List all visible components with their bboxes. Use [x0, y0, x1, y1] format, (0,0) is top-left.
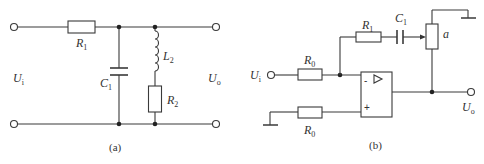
node-a-r2-bottom [153, 122, 158, 127]
terminal-b-output [468, 89, 475, 96]
label-b-c1: C1 [395, 11, 407, 27]
label-a-l2: L2 [162, 49, 174, 65]
resistor-b-r0-bottom [298, 107, 322, 118]
node-a-c1-bottom [117, 122, 122, 127]
opamp-minus-label: - [364, 75, 367, 86]
label-a-ui: Ui [13, 71, 25, 87]
caption-a: (a) [109, 141, 122, 154]
resistor-a-r1 [68, 21, 95, 33]
label-b-ui: Ui [250, 68, 262, 84]
opamp-plus-label: + [364, 102, 370, 113]
label-b-r0-top: R0 [303, 53, 315, 69]
terminal-a-out-top [213, 24, 220, 31]
circuit-b: - + R1 C1 a R0 R0 Ui Uo (b) [250, 10, 476, 152]
caption-b: (b) [369, 139, 382, 152]
node-a-c1-top [117, 25, 122, 30]
terminal-a-in-top [11, 24, 18, 31]
label-b-uo: Uo [462, 100, 475, 116]
node-b-output [430, 90, 435, 95]
circuit-diagrams: R1 C1 L2 R2 Ui Uo (a) - + [0, 0, 484, 164]
label-b-r0-bottom: R0 [303, 123, 315, 139]
label-b-r1: R1 [361, 18, 373, 34]
label-a-uo: Uo [208, 71, 221, 87]
inductor-a-l2 [155, 31, 159, 71]
label-b-pot: a [443, 27, 449, 41]
label-a-c1: C1 [100, 76, 112, 92]
label-a-r2: R2 [166, 93, 178, 109]
circuit-a: R1 C1 L2 R2 Ui Uo (a) [11, 21, 221, 154]
terminal-a-in-bottom [11, 121, 18, 128]
potentiometer-wiper-arrow-icon [420, 35, 426, 40]
terminal-b-input [268, 72, 275, 79]
resistor-a-r2 [149, 86, 162, 112]
label-a-r1: R1 [75, 36, 87, 52]
terminal-a-out-bottom [213, 121, 220, 128]
resistor-b-r0-top [298, 69, 322, 80]
node-a-l2-top [153, 25, 158, 30]
potentiometer-b [426, 24, 438, 49]
